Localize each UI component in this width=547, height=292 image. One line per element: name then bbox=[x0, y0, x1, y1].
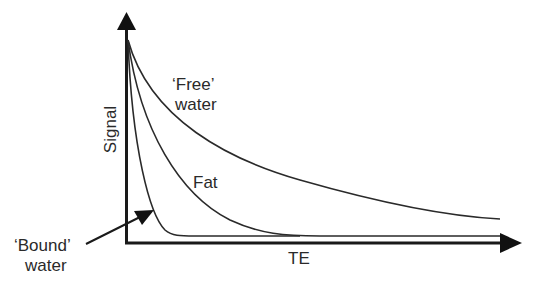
t2-decay-diagram: Signal TE ‘Free’ water Fat ‘Bound’ water bbox=[0, 0, 547, 292]
x-axis-arrow-icon bbox=[500, 233, 522, 253]
x-axis-label: TE bbox=[288, 249, 310, 268]
bound-water-pointer bbox=[86, 217, 140, 244]
bound-water-curve bbox=[128, 40, 300, 236]
free-water-label-line1: ‘Free’ bbox=[172, 75, 215, 94]
bound-water-label-line1: ‘Bound’ bbox=[14, 236, 71, 255]
fat-curve bbox=[128, 40, 500, 236]
fat-label: Fat bbox=[193, 173, 218, 192]
diagram-canvas bbox=[0, 0, 547, 292]
free-water-curve bbox=[128, 40, 500, 219]
free-water-label-line2: water bbox=[175, 95, 217, 114]
y-axis-label: Signal bbox=[101, 100, 120, 160]
bound-water-label-line2: water bbox=[25, 256, 67, 275]
y-axis-arrow-icon bbox=[117, 12, 136, 30]
